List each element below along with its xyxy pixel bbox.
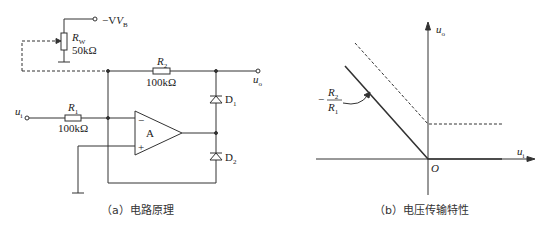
- origin-label: O: [431, 162, 439, 174]
- input-label: ui: [15, 105, 23, 120]
- d1-label: D1: [225, 93, 237, 108]
- r1-value: 100kΩ: [58, 122, 88, 134]
- resistor-r1: [65, 115, 81, 121]
- slope-pointer: [343, 95, 368, 104]
- slope-annotation: − R2 R1: [318, 86, 342, 116]
- rw-value: 50kΩ: [72, 44, 97, 56]
- x-axis-arrow-icon: [527, 157, 535, 162]
- resistor-r2: [153, 68, 170, 74]
- solid-curve: [345, 66, 502, 159]
- opamp-plus: +: [138, 141, 144, 153]
- r1-label: R1: [67, 101, 79, 116]
- diode-d2: [210, 153, 222, 160]
- circuit: [22, 17, 260, 193]
- caption-b: （b）电压传输特性: [374, 203, 469, 217]
- opamp-label: A: [146, 127, 154, 139]
- y-axis-label: uo: [436, 23, 446, 38]
- diagram-canvas: −VVB RW 50kΩ R2 100kΩ R1 100kΩ ui uo A −…: [0, 0, 548, 235]
- potentiometer-rw: [61, 33, 67, 50]
- transfer-chart: [316, 22, 535, 195]
- svg-text:R2: R2: [327, 86, 339, 101]
- caption-a: （a）电路原理: [101, 204, 174, 217]
- opamp-minus: −: [138, 114, 144, 126]
- y-axis-arrow-icon: [426, 22, 431, 30]
- supply-label: −VVB: [102, 14, 128, 29]
- x-axis-label: ui: [517, 145, 525, 160]
- output-label: uo: [253, 73, 263, 88]
- diode-d1: [210, 96, 222, 103]
- d2-label: D2: [225, 151, 237, 166]
- r2-value: 100kΩ: [146, 76, 176, 88]
- svg-text:R1: R1: [327, 101, 339, 116]
- svg-text:−: −: [318, 93, 324, 105]
